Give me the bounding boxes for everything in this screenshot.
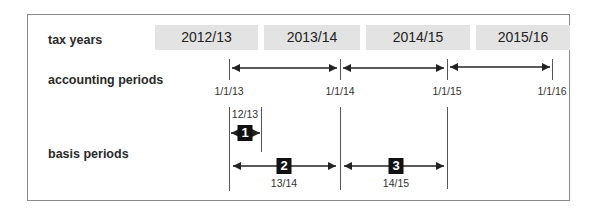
basis-period-1-label: 12/13 bbox=[232, 108, 258, 120]
basis-period-1-badge: 1 bbox=[238, 125, 253, 141]
basis-period-2-label: 13/14 bbox=[271, 177, 297, 189]
date-label-1-1-16: 1/1/16 bbox=[537, 85, 566, 97]
timeline-arrows bbox=[0, 0, 599, 215]
basis-period-3-label: 14/15 bbox=[383, 177, 409, 189]
date-label-1-1-14: 1/1/14 bbox=[325, 85, 354, 97]
date-label-1-1-15: 1/1/15 bbox=[432, 85, 461, 97]
date-label-1-1-13: 1/1/13 bbox=[214, 85, 243, 97]
basis-period-3-badge: 3 bbox=[389, 158, 404, 174]
basis-period-2-badge: 2 bbox=[277, 158, 292, 174]
